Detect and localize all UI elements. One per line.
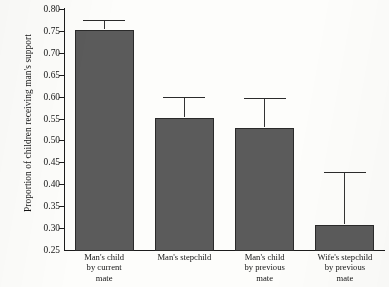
x-axis-tick-labels: Man's childby currentmateMan's stepchild… [64,252,385,287]
y-axis-tick-label: 0.30 [30,223,60,233]
x-axis-category-label-line: by current [57,262,151,272]
bar-group [75,0,134,251]
error-bar-cap [83,20,125,21]
y-axis-tick-label: 0.25 [30,245,60,255]
bar [75,30,134,251]
y-axis-tick-label: 0.45 [30,157,60,167]
y-axis-tick-label: 0.55 [30,114,60,124]
error-bar-stem [184,97,185,117]
y-axis-tick-label: 0.60 [30,92,60,102]
bar-group [155,0,214,251]
bar-chart: Proportion of children receiving man's s… [0,0,389,287]
x-axis-category-label-line: mate [57,273,151,283]
bar-group [315,0,374,251]
y-axis-tick-label: 0.70 [30,48,60,58]
y-axis-tick-label: 0.40 [30,179,60,189]
x-axis-category-label: Wife's stepchildby previousmate [298,252,389,283]
bar [235,128,294,251]
error-bar-stem [264,98,265,127]
bar [315,225,374,251]
y-axis-tick-label: 0.50 [30,135,60,145]
y-axis-tick-label: 0.65 [30,70,60,80]
error-bar-stem [344,172,345,224]
error-bar-cap [324,172,366,173]
error-bar-cap [244,98,286,99]
y-axis-tick-label: 0.75 [30,26,60,36]
error-bar-cap [163,97,205,98]
error-bar-stem [104,20,105,29]
x-axis-category-label-line: mate [298,273,389,283]
x-axis-category-label-line: Wife's stepchild [298,252,389,262]
bar [155,118,214,251]
plot-area [64,0,385,251]
bar-group [235,0,294,251]
x-axis-category-label-line: by previous [298,262,389,272]
y-axis-tick-labels: 0.800.750.700.650.600.550.500.450.400.35… [28,0,60,287]
y-axis-tick-label: 0.35 [30,201,60,211]
y-axis-tick-label: 0.80 [30,4,60,14]
